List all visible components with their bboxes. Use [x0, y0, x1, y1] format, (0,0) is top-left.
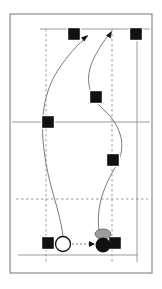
player-position-4 [42, 116, 55, 129]
player-position-2 [130, 28, 143, 41]
player-position-3 [90, 91, 103, 104]
target-token [96, 238, 111, 253]
diagram-border [10, 14, 152, 273]
player-position-5 [107, 154, 120, 167]
diagram-root [0, 0, 162, 289]
player-position-1 [68, 28, 81, 41]
diagram-stage [0, 0, 162, 289]
play-diagram-canvas [0, 0, 162, 289]
origin-token [56, 237, 71, 252]
player-position-6 [42, 237, 55, 250]
player-position-7 [109, 237, 122, 250]
